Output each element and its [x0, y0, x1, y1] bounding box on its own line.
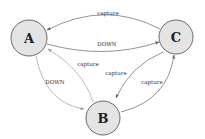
edge-c-to-a: capture [47, 10, 160, 30]
edge-label-c-to-a: capture [97, 10, 119, 17]
node-a: A [11, 20, 47, 56]
node-b-label: B [98, 111, 109, 126]
node-c-label: C [171, 30, 181, 45]
edge-a-to-c: DOWN [47, 41, 159, 52]
state-diagram: capture DOWN DOWN capture capture captur… [0, 0, 205, 139]
edge-label-a-to-c: DOWN [97, 41, 117, 47]
node-c: C [159, 20, 193, 54]
edge-b-to-a: capture [48, 49, 99, 102]
arrow-b-to-a [48, 49, 93, 102]
edge-c-to-b: capture [105, 52, 163, 98]
edge-label-c-to-b: capture [105, 70, 127, 77]
arrow-c-to-a [47, 15, 160, 30]
edge-label-b-to-a: capture [77, 61, 99, 68]
edge-label-a-to-b: DOWN [45, 79, 65, 85]
edge-b-to-c: capture [121, 55, 174, 112]
edge-label-b-to-c: capture [141, 79, 163, 86]
node-b: B [86, 101, 120, 135]
node-a-label: A [23, 31, 35, 46]
